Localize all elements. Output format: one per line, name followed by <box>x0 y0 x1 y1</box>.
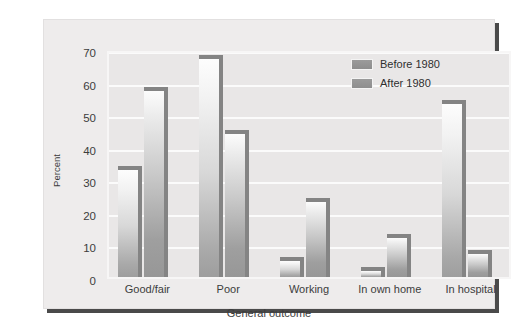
bar-right-edge <box>407 234 411 277</box>
bar-right-edge <box>219 55 223 277</box>
gridline <box>109 53 509 54</box>
legend-label: After 1980 <box>380 77 431 89</box>
bar-right-edge <box>488 250 492 277</box>
y-axis-tick-label: 70 <box>83 47 96 59</box>
x-axis-tick-labels: Good/fairPoorWorkingIn own homeIn hospit… <box>107 283 511 299</box>
bar <box>387 238 407 277</box>
legend-swatch-before-1980 <box>351 59 373 70</box>
bar-right-edge <box>300 257 304 277</box>
y-axis-tick-label: 20 <box>83 210 96 222</box>
legend-swatch-after-1980 <box>351 78 373 89</box>
bar-right-edge <box>326 198 330 277</box>
bar <box>280 261 300 277</box>
bar <box>118 170 138 277</box>
legend-label: Before 1980 <box>380 58 440 70</box>
x-axis-tick-label: Working <box>289 283 329 295</box>
plot-frame <box>107 51 511 279</box>
x-axis-tick-label: Good/fair <box>125 283 170 295</box>
x-axis-tick-label: In own home <box>358 283 421 295</box>
gridline <box>109 85 509 87</box>
bar-right-edge <box>462 100 466 277</box>
bar <box>442 104 462 277</box>
bar-right-edge <box>138 166 142 277</box>
bar-right-edge <box>164 87 168 277</box>
plot-area <box>109 53 509 277</box>
bar <box>361 271 381 278</box>
bar <box>144 91 164 277</box>
x-axis-tick-label: In hospital <box>446 283 496 295</box>
bar-right-edge <box>381 267 385 278</box>
y-axis-tick-label: 30 <box>83 177 96 189</box>
chart-legend: Before 1980After 1980 <box>351 58 440 89</box>
y-axis-tick-label: 0 <box>90 275 96 287</box>
bar <box>225 134 245 277</box>
bar <box>468 254 488 277</box>
y-axis-tick-label: 50 <box>83 112 96 124</box>
chart-panel: Percent 010203040506070 Before 1980After… <box>43 19 495 309</box>
y-axis-tick-label: 10 <box>83 242 96 254</box>
bar <box>306 202 326 277</box>
y-axis-tick-label: 40 <box>83 145 96 157</box>
y-axis-tick-label: 60 <box>83 80 96 92</box>
legend-item: Before 1980 <box>351 58 440 70</box>
legend-item: After 1980 <box>351 77 440 89</box>
x-axis-title: General outcome <box>44 307 494 319</box>
bar-right-edge <box>245 130 249 277</box>
y-axis-tick-labels: 010203040506070 <box>44 51 104 279</box>
bar <box>199 59 219 277</box>
x-axis-tick-label: Poor <box>217 283 240 295</box>
